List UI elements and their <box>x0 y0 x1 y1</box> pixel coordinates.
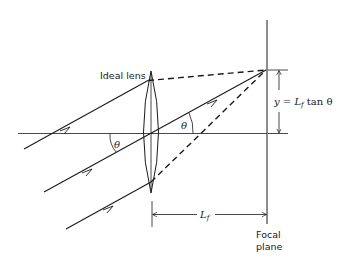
focal-length-label: Lf <box>199 209 211 222</box>
ideal-lens <box>144 71 159 193</box>
lens-label: Ideal lens <box>100 70 146 81</box>
focal-plane-label-line1: Focal <box>256 229 281 240</box>
angle-label-right: θ <box>181 120 187 131</box>
ray-diagram: θ θ Ideal lens y = Lf tan θ Lf Focal pla… <box>0 0 342 263</box>
focal-plane-label-line2: plane <box>256 241 283 252</box>
ray-arrow-icon <box>103 206 113 213</box>
angle-arc-right <box>189 113 193 134</box>
ray-bottom <box>66 70 266 229</box>
angle-label-left: θ <box>114 139 120 150</box>
height-equation: y = Lf tan θ <box>273 96 332 109</box>
